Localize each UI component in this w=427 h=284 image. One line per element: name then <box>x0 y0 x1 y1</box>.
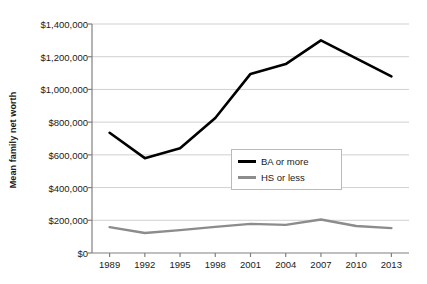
x-axis-tick-label: 1992 <box>134 259 155 270</box>
gridlines <box>92 24 409 220</box>
x-axis-tick-label: 2007 <box>310 259 331 270</box>
x-axis-tick-label: 2004 <box>275 259 296 270</box>
x-axis-tick-label: 1989 <box>99 259 120 270</box>
x-axis-tick-label: 1995 <box>169 259 190 270</box>
x-axis-ticks <box>110 253 392 257</box>
legend-item-ba-or-more: BA or more <box>238 154 309 170</box>
legend-label-ba-or-more: BA or more <box>261 156 309 167</box>
legend-item-hs-or-less: HS or less <box>238 170 305 186</box>
x-axis-tick-label: 2013 <box>381 259 402 270</box>
data-series-group <box>110 40 392 233</box>
series-line-ba-or-more <box>110 40 392 158</box>
x-axis-tick-label: 1998 <box>205 259 226 270</box>
series-line-hs-or-less <box>110 219 392 233</box>
x-axis-tick-label: 2001 <box>240 259 261 270</box>
plot-area <box>0 0 427 284</box>
legend-swatch-hs-or-less <box>238 176 256 179</box>
legend-label-hs-or-less: HS or less <box>261 172 305 183</box>
chart-container: Mean family net worth $0$200,000$400,000… <box>0 0 427 284</box>
legend: BA or more HS or less <box>231 149 342 190</box>
x-axis-tick-label: 2010 <box>346 259 367 270</box>
legend-swatch-ba-or-more <box>238 160 256 163</box>
